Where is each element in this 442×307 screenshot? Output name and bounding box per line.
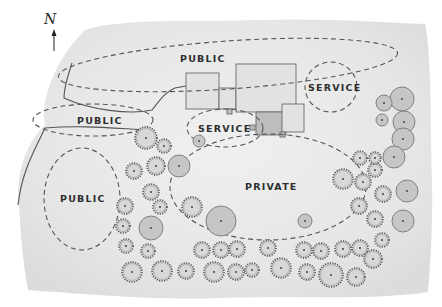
tree-canopy-icon xyxy=(376,114,388,126)
zone-label-public-north: PUBLIC xyxy=(180,53,226,64)
shrub-icon xyxy=(353,151,367,165)
north-label: N xyxy=(43,11,57,27)
shrub-icon xyxy=(178,263,194,279)
tree-canopy-icon xyxy=(139,216,163,240)
shrub-icon xyxy=(153,200,167,214)
shrub-icon xyxy=(333,169,353,189)
shrub-icon xyxy=(299,264,315,280)
zone-label-service-east: SERVICE xyxy=(308,82,361,93)
tree-canopy-icon xyxy=(392,210,414,232)
zone-label-private: PRIVATE xyxy=(245,181,298,192)
shrub-icon xyxy=(213,242,229,258)
shrub-icon xyxy=(141,244,155,258)
shrub-icon xyxy=(367,211,383,227)
tree-canopy-icon xyxy=(390,87,414,111)
shrub-icon xyxy=(364,250,382,268)
shrub-icon xyxy=(319,263,343,287)
tree-canopy-icon xyxy=(168,155,190,177)
shrub-icon xyxy=(375,233,389,247)
shrub-icon xyxy=(355,174,371,190)
north-arrow: N xyxy=(43,11,57,51)
building xyxy=(219,88,236,109)
shrub-icon xyxy=(147,157,165,175)
shrub-icon xyxy=(117,198,133,214)
shrub-icon xyxy=(375,186,391,202)
zone-label-public-west: PUBLIC xyxy=(77,115,123,126)
shrub-icon xyxy=(143,184,159,200)
site-plan-diagram: N PUBLICPUBLICPUBLICSERVICESERVICEPRIVAT… xyxy=(0,0,442,307)
tree-canopy-icon xyxy=(376,95,392,111)
shrub-icon xyxy=(119,239,133,253)
shrub-icon xyxy=(245,263,259,277)
shrub-icon xyxy=(369,152,381,164)
arrow-up-icon xyxy=(52,29,57,36)
zone-label-service-center: SERVICE xyxy=(198,123,251,134)
shrub-icon xyxy=(157,139,171,153)
shrub-icon xyxy=(260,240,276,256)
shrub-icon xyxy=(122,262,142,282)
shrub-icon xyxy=(313,243,329,259)
shrub-icon xyxy=(135,127,157,149)
tree-canopy-icon xyxy=(206,206,236,236)
tree-canopy-icon xyxy=(396,180,418,202)
shrub-icon xyxy=(335,241,351,257)
shrub-icon xyxy=(182,197,202,217)
tree-canopy-icon xyxy=(383,146,405,168)
shrub-icon xyxy=(229,241,245,257)
shrub-icon xyxy=(152,261,172,281)
shrub-icon xyxy=(204,262,224,282)
tree-canopy-icon xyxy=(298,214,312,228)
zone-label-public-southwest: PUBLIC xyxy=(60,193,106,204)
shrub-icon xyxy=(347,268,365,286)
shrub-icon xyxy=(126,163,142,179)
shrub-icon xyxy=(368,163,382,177)
shrub-icon xyxy=(296,242,312,258)
tree-canopy-icon xyxy=(193,135,205,147)
shrub-icon xyxy=(352,240,368,256)
building xyxy=(227,109,232,114)
building xyxy=(282,104,304,132)
shrub-icon xyxy=(194,242,210,258)
shrub-icon xyxy=(271,258,291,278)
shrub-icon xyxy=(351,198,367,214)
shrub-icon xyxy=(228,264,244,280)
shrub-icon xyxy=(116,219,130,233)
